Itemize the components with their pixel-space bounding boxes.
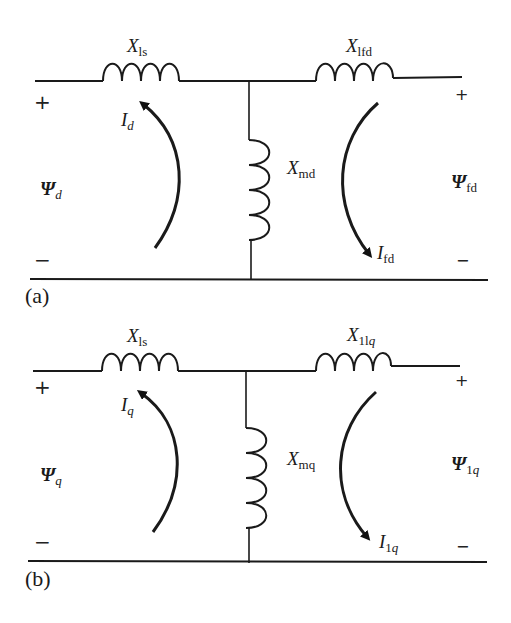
label-xls-b: Xls <box>127 326 147 348</box>
label-psi-q-b: Ψq <box>40 465 62 487</box>
arrow-id-a <box>143 104 179 248</box>
label-id-a: Id <box>121 110 134 132</box>
arrow-i1q-b <box>341 392 376 537</box>
label-ifd-a: Ifd <box>377 243 394 265</box>
label-xls-a: Xls <box>127 36 147 58</box>
inductor-xls-a <box>103 64 179 81</box>
wire-top-right-a <box>393 77 462 78</box>
circuit-diagram <box>0 0 511 623</box>
minus-right-b: − <box>456 539 469 555</box>
arrow-ifd-a <box>343 103 378 254</box>
label-iq-b: Iq <box>121 395 134 417</box>
inductor-xmq-b <box>246 428 266 528</box>
label-xlfd-a: Xlfd <box>346 36 372 58</box>
caption-a: (a) <box>25 285 49 307</box>
label-xmq-b: Xmq <box>287 449 315 471</box>
label-psi-1q-b: Ψ1q <box>451 454 479 476</box>
plus-right-a: + <box>455 87 468 103</box>
plus-left-a: + <box>34 92 51 112</box>
arrow-iq-b <box>141 393 177 532</box>
plus-right-b: + <box>455 373 468 389</box>
wire-bottom-a <box>30 279 488 280</box>
plus-left-b: + <box>34 377 51 397</box>
minus-left-b: − <box>34 532 51 552</box>
inductor-xllq-b <box>316 353 391 371</box>
inductor-xmd-a <box>249 140 269 240</box>
label-psi-d-a: Ψd <box>40 179 62 201</box>
panel-b-circuit <box>28 353 487 563</box>
minus-left-a: − <box>34 250 51 270</box>
panel-a-circuit <box>30 63 488 280</box>
label-i1q-b: I1q <box>379 532 398 554</box>
wire-bottom-b <box>28 561 487 562</box>
inductor-xls-b <box>102 354 178 371</box>
caption-b: (b) <box>25 568 51 590</box>
label-xllq-b: X1lq <box>347 325 375 347</box>
minus-right-a: − <box>456 253 469 269</box>
label-xmd-a: Xmd <box>287 158 315 180</box>
inductor-xlfd-a <box>316 63 393 81</box>
label-psi-fd-a: Ψfd <box>451 172 477 194</box>
